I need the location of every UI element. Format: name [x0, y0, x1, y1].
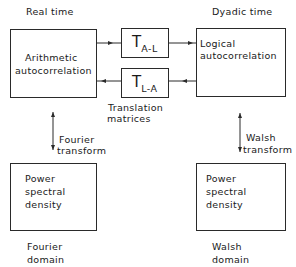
logical-label-line2: autocorrelation — [200, 50, 277, 62]
translation-label-line2: matrices — [107, 113, 151, 125]
fourier-transform-line2: transform — [57, 145, 106, 157]
header-real-time: Real time — [26, 6, 74, 18]
t-al-matrix-box: TA-L — [121, 28, 169, 58]
arrow-down-icon — [51, 145, 55, 150]
arrow-up-icon — [51, 112, 55, 117]
psd-fourier-line3: density — [25, 199, 62, 211]
psd-fourier-line2: spectral — [25, 186, 66, 198]
t-la-matrix-box: TL-A — [121, 68, 169, 98]
t-la-label: TL-A — [132, 74, 158, 97]
psd-walsh-line2: spectral — [206, 186, 247, 198]
arrow-left-icon — [101, 79, 106, 83]
arithmetic-autocorrelation-box: Arithmetic autocorrelation — [10, 29, 97, 98]
fourier-domain-line2: domain — [27, 254, 64, 266]
header-dyadic-time: Dyadic time — [212, 6, 272, 18]
fourier-domain-line1: Fourier — [27, 241, 62, 253]
arrow-up-icon — [238, 113, 242, 118]
logical-label-line1: Logical — [200, 38, 235, 50]
arrow-down-icon — [238, 147, 242, 152]
walsh-domain-line2: domain — [212, 254, 249, 266]
walsh-transform-line1: Walsh — [246, 132, 276, 144]
arrow-right-icon — [108, 41, 113, 45]
arrow-left-icon — [182, 79, 187, 83]
t-al-label: TA-L — [132, 34, 158, 57]
logical-autocorrelation-box: Logical autocorrelation — [196, 28, 286, 97]
walsh-transform-line2: transform — [243, 144, 292, 156]
psd-fourier-box: Power spectral density — [10, 163, 97, 231]
psd-walsh-line3: density — [206, 199, 243, 211]
arithmetic-label-line1: Arithmetic — [25, 52, 77, 64]
arrow-right-icon — [188, 41, 193, 45]
walsh-domain-line1: Walsh — [212, 241, 242, 253]
psd-fourier-line1: Power — [25, 173, 55, 185]
arithmetic-label-line2: autocorrelation — [15, 65, 92, 77]
psd-walsh-line1: Power — [206, 173, 236, 185]
psd-walsh-box: Power spectral density — [196, 163, 286, 231]
